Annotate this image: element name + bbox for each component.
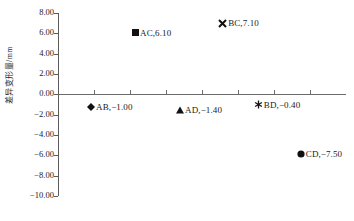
data-point-cd[interactable]: CD,−7.50 [297, 149, 342, 159]
x-axis-tick-mark [310, 90, 311, 94]
y-axis-tick-label: 8.00 [12, 8, 54, 17]
data-point-label: AD,−1.40 [185, 105, 222, 115]
y-axis-tick-labels: 8.006.004.002.000.00−2.00−4.00−6.00−8.00… [10, 0, 54, 221]
diamond-marker-icon [87, 103, 95, 111]
data-point-ac[interactable]: AC,6.10 [132, 28, 171, 38]
y-axis-tick-label: −8.00 [12, 171, 54, 180]
y-axis-tick-mark [54, 155, 58, 156]
triangle-marker-icon [176, 106, 184, 114]
y-axis-tick-label: 0.00 [12, 89, 54, 98]
x-axis-tick-mark [130, 90, 131, 94]
y-axis-tick-mark [54, 196, 58, 197]
y-axis-tick-label: −2.00 [12, 110, 54, 119]
scatter-chart: 差异变形量/mm 8.006.004.002.000.00−2.00−4.00−… [0, 0, 354, 221]
data-point-ab[interactable]: AB,−1.00 [87, 102, 132, 112]
data-point-bc[interactable]: BC,7.10 [218, 18, 259, 28]
data-point-ad[interactable]: AD,−1.40 [176, 105, 222, 115]
x-axis-tick-mark [166, 90, 167, 94]
data-point-label: AB,−1.00 [96, 102, 132, 112]
data-point-label: BD,−0.40 [264, 100, 300, 110]
square-marker-icon [132, 29, 139, 36]
y-axis-tick-mark [54, 13, 58, 14]
circle-marker-icon [297, 150, 305, 158]
y-axis-tick-mark [54, 176, 58, 177]
y-axis-line [58, 13, 59, 196]
x-axis-tick-mark [238, 90, 239, 94]
data-point-label: CD,−7.50 [306, 149, 342, 159]
y-axis-tick-mark [54, 54, 58, 55]
x-axis-line [58, 94, 346, 95]
y-axis-tick-label: 6.00 [12, 28, 54, 37]
data-point-label: BC,7.10 [228, 18, 259, 28]
y-axis-tick-mark [54, 94, 58, 95]
y-axis-tick-label: 2.00 [12, 69, 54, 78]
y-axis-tick-mark [54, 74, 58, 75]
cross-marker-icon [218, 19, 227, 28]
x-axis-tick-mark [202, 90, 203, 94]
y-axis-tick-label: −10.00 [12, 191, 54, 200]
data-point-label: AC,6.10 [140, 28, 171, 38]
y-axis-tick-label: −4.00 [12, 130, 54, 139]
x-axis-tick-mark [274, 90, 275, 94]
asterisk-marker-icon [254, 100, 263, 109]
y-axis-tick-label: −6.00 [12, 150, 54, 159]
x-axis-tick-mark [94, 90, 95, 94]
y-axis-tick-mark [54, 115, 58, 116]
plot-area: AB,−1.00AC,6.10AD,−1.40BC,7.10BD,−0.40CD… [58, 13, 346, 196]
y-axis-tick-mark [54, 135, 58, 136]
y-axis-tick-label: 4.00 [12, 49, 54, 58]
y-axis-tick-mark [54, 33, 58, 34]
data-point-bd[interactable]: BD,−0.40 [254, 100, 300, 110]
